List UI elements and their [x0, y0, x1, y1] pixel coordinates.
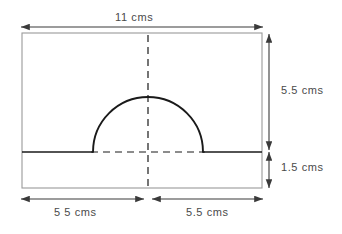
dimension-label-overall-width: 11 cms: [115, 12, 153, 23]
figure-canvas: 11 cms 5.5 cms 1.5 cms 5 5 cms 5.5 cms: [0, 0, 342, 234]
geometry-drawing: [0, 0, 342, 234]
outer-rectangle: [22, 33, 262, 188]
dimension-label-left-half-width: 5 5 cms: [54, 207, 97, 218]
dimension-label-lower-height: 1.5 cms: [281, 162, 324, 173]
dimension-label-upper-height: 5.5 cms: [281, 85, 324, 96]
dimension-label-right-half-width: 5.5 cms: [186, 207, 229, 218]
